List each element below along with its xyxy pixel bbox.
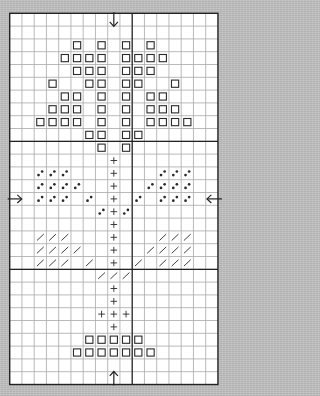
dot: [78, 183, 81, 186]
dot: [135, 199, 138, 202]
dot: [123, 212, 126, 215]
dot: [147, 187, 150, 190]
dot: [176, 170, 179, 173]
dot: [65, 183, 68, 186]
dot: [176, 196, 179, 199]
dot: [172, 174, 175, 177]
dot: [176, 183, 179, 186]
dot: [62, 187, 65, 190]
dot: [62, 174, 65, 177]
dot: [163, 170, 166, 173]
dot: [41, 170, 44, 173]
dot: [74, 187, 77, 190]
dot: [188, 170, 191, 173]
dot: [172, 199, 175, 202]
dot: [53, 170, 56, 173]
dot: [41, 183, 44, 186]
dot: [188, 196, 191, 199]
dot: [37, 174, 40, 177]
dot: [172, 187, 175, 190]
dot: [65, 170, 68, 173]
dot: [163, 183, 166, 186]
dot: [86, 199, 89, 202]
dot: [160, 199, 163, 202]
dot: [160, 174, 163, 177]
dot: [184, 174, 187, 177]
dot: [49, 174, 52, 177]
dot: [160, 187, 163, 190]
dot: [53, 183, 56, 186]
dot: [139, 196, 142, 199]
dot: [184, 199, 187, 202]
dot: [53, 196, 56, 199]
dot: [127, 209, 130, 212]
dot: [163, 196, 166, 199]
dot: [65, 196, 68, 199]
cross-stitch-chart: [0, 0, 230, 396]
dot: [188, 183, 191, 186]
dot: [102, 209, 105, 212]
dot: [37, 199, 40, 202]
dot: [90, 196, 93, 199]
dot: [151, 183, 154, 186]
dot: [98, 212, 101, 215]
dot: [184, 187, 187, 190]
dot: [62, 199, 65, 202]
dot: [37, 187, 40, 190]
dot: [49, 187, 52, 190]
dot: [49, 199, 52, 202]
dot: [41, 196, 44, 199]
